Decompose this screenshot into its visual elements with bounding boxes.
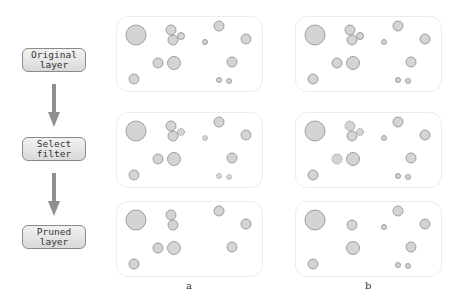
- filter-circle: [420, 34, 430, 44]
- filter-circle: [168, 131, 178, 141]
- selected-filter-circle: [332, 154, 342, 164]
- filter-circle: [382, 40, 387, 45]
- filter-circle: [166, 121, 176, 131]
- column-label-b: b: [365, 280, 371, 291]
- filter-circle: [126, 25, 146, 45]
- filter-circle: [126, 121, 146, 141]
- filter-circle: [396, 174, 401, 179]
- filter-circle: [396, 78, 401, 83]
- selected-filter-circle: [357, 129, 364, 136]
- filter-circle: [241, 130, 251, 140]
- filter-circle: [227, 57, 237, 67]
- filter-circle: [406, 264, 411, 269]
- filter-circle: [420, 130, 430, 140]
- selected-filter-circle: [227, 175, 232, 180]
- filter-circle: [382, 136, 387, 141]
- filter-circle: [217, 78, 222, 83]
- filter-circle: [153, 154, 163, 164]
- selected-filter-circle: [203, 136, 208, 141]
- filter-circle: [347, 153, 360, 166]
- filter-circle: [347, 220, 357, 230]
- filter-circle: [406, 153, 416, 163]
- filter-circle: [227, 79, 232, 84]
- filter-circle: [393, 21, 403, 31]
- filter-circle: [168, 242, 181, 255]
- selected-filter-circle: [345, 121, 355, 131]
- filter-circle: [305, 25, 325, 45]
- filter-circle: [214, 206, 224, 216]
- filter-circle: [406, 175, 411, 180]
- filter-circle: [308, 74, 318, 84]
- filter-circle: [393, 117, 403, 127]
- filter-circle: [166, 210, 176, 220]
- filter-circle: [168, 220, 178, 230]
- filter-circle: [357, 33, 364, 40]
- filter-circle: [347, 131, 357, 141]
- filter-circle: [308, 259, 318, 269]
- column-label-a: a: [186, 280, 192, 291]
- filter-circle: [168, 57, 181, 70]
- filter-circle: [227, 242, 237, 252]
- filter-circle: [345, 25, 355, 35]
- filter-circle: [178, 33, 185, 40]
- filter-circle: [241, 34, 251, 44]
- filter-circles: [0, 0, 460, 308]
- filter-circle: [393, 206, 403, 216]
- filter-circle: [129, 170, 139, 180]
- filter-circle: [406, 242, 416, 252]
- filter-circle: [347, 57, 360, 70]
- filter-circle: [227, 153, 237, 163]
- filter-circle: [153, 243, 163, 253]
- filter-circle: [305, 121, 325, 141]
- filter-circle: [347, 242, 360, 255]
- filter-circle: [168, 153, 181, 166]
- filter-circle: [126, 210, 146, 230]
- filter-circle: [305, 210, 325, 230]
- filter-circle: [406, 79, 411, 84]
- filter-circle: [129, 74, 139, 84]
- filter-circle: [382, 225, 387, 230]
- filter-circle: [332, 58, 342, 68]
- filter-circle: [347, 35, 357, 45]
- filter-circle: [166, 25, 176, 35]
- filter-circle: [214, 21, 224, 31]
- filter-circle: [203, 40, 208, 45]
- selected-filter-circle: [217, 174, 222, 179]
- filter-circle: [308, 170, 318, 180]
- filter-circle: [406, 57, 416, 67]
- filter-circle: [129, 259, 139, 269]
- filter-circle: [214, 117, 224, 127]
- filter-circle: [396, 263, 401, 268]
- filter-circle: [420, 219, 430, 229]
- filter-circle: [241, 219, 251, 229]
- filter-circle: [153, 58, 163, 68]
- selected-filter-circle: [178, 129, 185, 136]
- filter-circle: [168, 35, 178, 45]
